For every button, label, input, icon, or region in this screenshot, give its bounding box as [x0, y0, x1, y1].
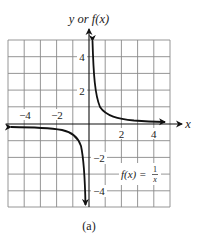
- y-tick-neg4: −4: [93, 185, 105, 197]
- x-axis-label: x: [184, 117, 191, 131]
- caption: (a): [82, 219, 95, 233]
- function-label: f(x) =: [121, 168, 146, 181]
- x-tick-2: 2: [119, 128, 125, 140]
- chart: −4 −2 2 4 4 2 −2 −4 y or f(x) x f(x) = 1…: [0, 0, 197, 239]
- x-tick-neg4: −4: [19, 109, 31, 121]
- x-tick-neg2: −2: [51, 109, 63, 121]
- y-tick-2: 2: [79, 85, 85, 97]
- y-tick-4: 4: [79, 51, 85, 63]
- curve-negative-branch: [11, 127, 86, 205]
- y-tick-neg2: −2: [93, 152, 105, 164]
- function-denominator: x: [152, 175, 157, 184]
- function-numerator: 1: [153, 165, 157, 174]
- y-axis-label: y or f(x): [67, 12, 109, 26]
- x-tick-4: 4: [151, 128, 157, 140]
